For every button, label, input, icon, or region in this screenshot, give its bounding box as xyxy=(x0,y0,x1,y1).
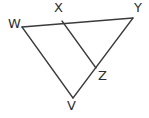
segment-wy xyxy=(22,18,133,27)
vertex-label-x: X xyxy=(54,1,63,14)
vertex-label-w: W xyxy=(8,17,21,30)
segment-wv xyxy=(22,27,73,98)
vertex-label-y: Y xyxy=(134,1,142,14)
vertex-label-v: V xyxy=(67,99,76,112)
segment-xz xyxy=(62,21,96,68)
segment-yv xyxy=(73,18,133,98)
vertex-label-z: Z xyxy=(98,69,107,82)
geometry-figure: W X Y Z V xyxy=(0,0,149,118)
